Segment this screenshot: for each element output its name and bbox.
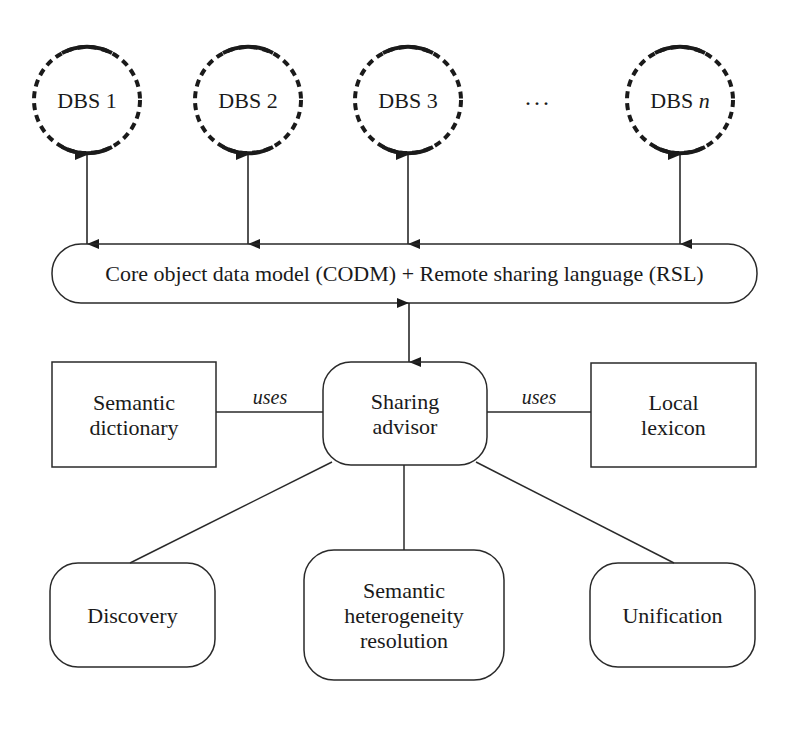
local-lexicon-label: Local lexicon — [591, 363, 756, 467]
semantic-dictionary-label: Semantic dictionary — [52, 362, 216, 467]
dbs-label-number: n — [699, 88, 710, 113]
sharing-advisor-label: Sharing advisor — [323, 362, 487, 465]
dbs-label-prefix: DBS — [650, 88, 693, 113]
dbs-label-2: DBS 2 — [198, 85, 298, 115]
dbs-label-number: 1 — [106, 88, 117, 113]
discovery-label: Discovery — [50, 563, 215, 667]
dbs-label-1: DBS 1 — [37, 85, 137, 115]
ellipsis: ... — [525, 84, 552, 111]
line-advisor-unification — [476, 462, 674, 563]
dbs-label-prefix: DBS — [378, 88, 421, 113]
semantic-heterogeneity-resolution-label: Semantic heterogeneity resolution — [304, 550, 504, 680]
dbs-label-n: DBS n — [630, 85, 730, 115]
dbs-label-number: 3 — [427, 88, 438, 113]
uses-label-left: uses — [240, 386, 300, 409]
unification-label: Unification — [590, 563, 755, 667]
line-advisor-discovery — [130, 462, 332, 563]
dbs-label-prefix: DBS — [57, 88, 100, 113]
dbs-label-prefix: DBS — [218, 88, 261, 113]
dbs-label-number: 2 — [267, 88, 278, 113]
codm-rsl-label: Core object data model (CODM) + Remote s… — [52, 244, 757, 303]
dbs-label-3: DBS 3 — [358, 85, 458, 115]
uses-label-right: uses — [509, 386, 569, 409]
